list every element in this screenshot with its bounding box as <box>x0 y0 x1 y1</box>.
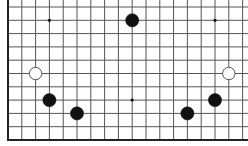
star-point-icon <box>131 99 134 102</box>
black-stone[interactable] <box>70 107 83 120</box>
white-stone[interactable] <box>29 67 41 79</box>
black-stone[interactable] <box>208 94 221 107</box>
star-point-icon <box>213 19 216 22</box>
star-point-icon <box>48 19 51 22</box>
black-stone[interactable] <box>43 94 56 107</box>
go-board[interactable] <box>0 0 248 146</box>
black-stone[interactable] <box>126 14 139 27</box>
white-stone[interactable] <box>223 67 235 79</box>
black-stone[interactable] <box>181 107 194 120</box>
